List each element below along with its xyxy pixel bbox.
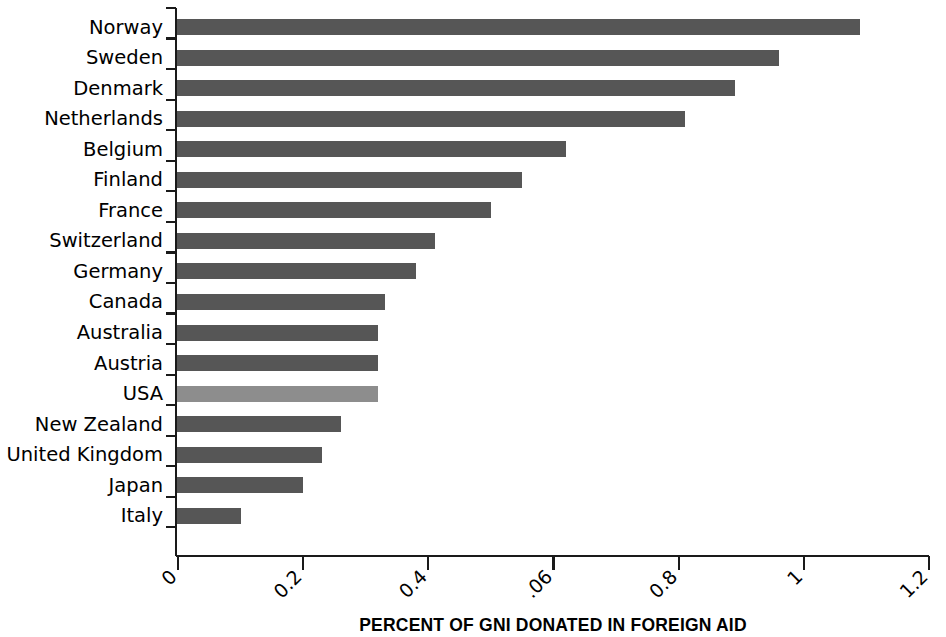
bar-germany[interactable] — [176, 263, 416, 279]
category-label-usa: USA — [123, 382, 164, 405]
bar-canada[interactable] — [176, 294, 385, 310]
category-label-denmark: Denmark — [73, 77, 163, 100]
bar-netherlands[interactable] — [176, 111, 685, 127]
category-label-germany: Germany — [73, 260, 163, 283]
bar-austria[interactable] — [176, 355, 378, 371]
category-label-belgium: Belgium — [83, 138, 163, 161]
category-label-australia: Australia — [77, 321, 163, 344]
bar-united-kingdom[interactable] — [176, 447, 322, 463]
category-label-norway: Norway — [89, 16, 163, 39]
bar-norway[interactable] — [176, 19, 860, 35]
bar-italy[interactable] — [176, 508, 241, 524]
bar-chart: NorwaySwedenDenmarkNetherlandsBelgiumFin… — [0, 0, 946, 637]
bar-sweden[interactable] — [176, 50, 779, 66]
category-label-finland: Finland — [93, 168, 163, 191]
category-labels-group: NorwaySwedenDenmarkNetherlandsBelgiumFin… — [6, 16, 163, 528]
bar-usa[interactable] — [176, 386, 378, 402]
category-label-new-zealand: New Zealand — [35, 413, 163, 436]
category-label-italy: Italy — [121, 504, 163, 527]
category-label-switzerland: Switzerland — [49, 229, 163, 252]
x-axis-tick-labels: 00.20.4.060.811.2 — [157, 565, 932, 602]
x-tick-label: .06 — [519, 565, 556, 602]
x-tick-label: 1.2 — [895, 565, 932, 602]
category-label-canada: Canada — [89, 290, 163, 313]
bar-australia[interactable] — [176, 325, 378, 341]
bars-group — [176, 19, 860, 524]
x-axis-title: PERCENT OF GNI DONATED IN FOREIGN AID — [359, 615, 747, 635]
x-tick-label: 0.2 — [269, 565, 306, 602]
x-axis-group: 00.20.4.060.811.2 — [157, 556, 932, 602]
bar-france[interactable] — [176, 202, 491, 218]
bar-finland[interactable] — [176, 172, 522, 188]
x-tick-label: 0.4 — [394, 565, 431, 602]
y-axis-ticks — [166, 8, 176, 527]
y-axis-group — [166, 8, 176, 556]
category-label-united-kingdom: United Kingdom — [6, 443, 163, 466]
category-label-japan: Japan — [107, 474, 163, 497]
bar-belgium[interactable] — [176, 141, 566, 157]
chart-canvas: NorwaySwedenDenmarkNetherlandsBelgiumFin… — [0, 0, 946, 637]
x-tick-label: 0.8 — [645, 565, 682, 602]
bar-switzerland[interactable] — [176, 233, 435, 249]
category-label-netherlands: Netherlands — [44, 107, 163, 130]
bar-new-zealand[interactable] — [176, 416, 341, 432]
category-label-austria: Austria — [94, 352, 163, 375]
bar-japan[interactable] — [176, 477, 303, 493]
bar-denmark[interactable] — [176, 80, 735, 96]
category-label-sweden: Sweden — [86, 46, 163, 69]
category-label-france: France — [98, 199, 163, 222]
